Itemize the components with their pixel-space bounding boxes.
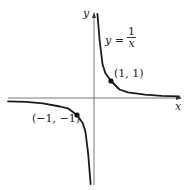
x-axis-label: x <box>175 101 181 112</box>
point-label-1-1: (1, 1) <box>114 68 144 79</box>
point-1-1 <box>108 78 113 83</box>
equation-denominator: x <box>127 38 136 50</box>
equation-fraction: 1 x <box>127 26 136 50</box>
point-label-neg1-neg1: (−1, −1) <box>32 113 80 124</box>
equation-lhs: y = <box>105 35 124 46</box>
hyperbola-figure: y x y = 1 x (1, 1) (−1, −1) <box>0 0 192 190</box>
graph-canvas <box>0 0 192 190</box>
y-axis-arrow-icon <box>92 12 96 18</box>
y-axis-label: y <box>83 8 89 19</box>
curve-positive-branch <box>97 14 179 96</box>
